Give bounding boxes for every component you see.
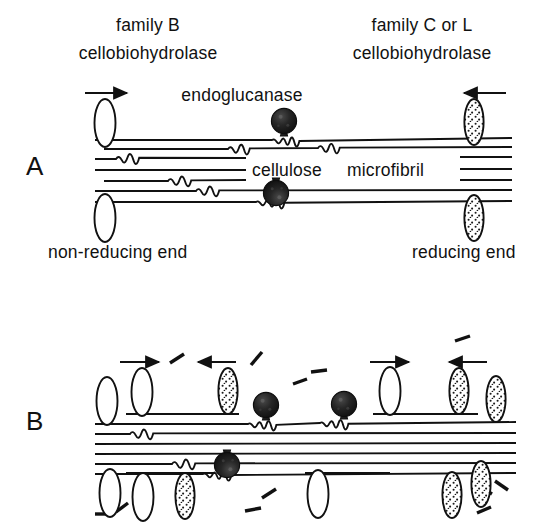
cellulose-fragment <box>311 370 327 372</box>
panel-a-letter: A <box>26 151 44 181</box>
family-b-cellobiohydrolase <box>132 368 153 416</box>
figure-background <box>0 0 547 529</box>
family-b-cellobiohydrolase <box>380 367 401 415</box>
family-b-cellobiohydrolase <box>97 377 118 425</box>
panel-a-right-enzyme-label-line2: cellobiohydrolase <box>353 43 492 63</box>
family-cl-cellobiohydrolase <box>449 368 468 414</box>
panel-a-endoglucanase-label: endoglucanase <box>181 85 302 105</box>
family-b-cellobiohydrolase-top <box>95 99 116 147</box>
panel-a-substrate-label-part2: microfibril <box>347 160 424 180</box>
diagram-canvas: A family B cellobiohydrolase family C or… <box>0 0 547 529</box>
family-cl-cellobiohydrolase <box>175 473 194 519</box>
family-b-cellobiohydrolase <box>133 473 154 521</box>
panel-a-substrate-label-part1: cellulose <box>252 160 322 180</box>
panel-a-left-enzyme-label-line1: family B <box>116 15 180 35</box>
family-cl-cellobiohydrolase <box>486 376 505 422</box>
panel-a-reducing-end-label: reducing end <box>412 242 516 262</box>
cellulose-chain <box>95 443 516 444</box>
family-b-cellobiohydrolase <box>100 469 121 517</box>
panel-a-right-enzyme-label-line1: family C or L <box>372 15 473 35</box>
panel-a-substrate-label: cellulose microfibril <box>249 155 458 185</box>
panel-b-letter: B <box>26 406 43 436</box>
family-b-cellobiohydrolase <box>308 470 329 518</box>
cellulose-chain <box>95 453 516 454</box>
panel-a-non-reducing-end-label: non-reducing end <box>48 242 187 262</box>
family-cl-cellobiohydrolase-top <box>464 99 483 145</box>
family-cl-cellobiohydrolase <box>442 472 461 518</box>
figure-root: A family B cellobiohydrolase family C or… <box>0 0 547 529</box>
family-cl-cellobiohydrolase <box>218 368 237 414</box>
panel-a-left-enzyme-label-line2: cellobiohydrolase <box>79 43 218 63</box>
family-cl-cellobiohydrolase-bottom <box>464 195 483 241</box>
family-cl-cellobiohydrolase <box>471 461 490 507</box>
family-b-cellobiohydrolase-bottom <box>95 194 116 242</box>
